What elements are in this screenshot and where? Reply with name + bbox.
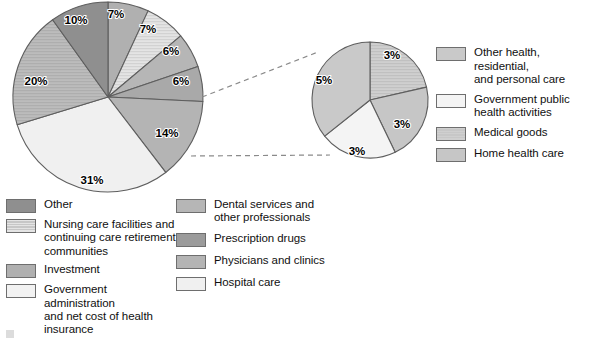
legend-swatch-icon — [176, 277, 206, 291]
legend-item[interactable]: Physicians and clinics — [176, 254, 326, 269]
legend-item[interactable]: Medical goods — [436, 126, 592, 141]
legend-item[interactable]: Government administration and net cost o… — [6, 283, 178, 337]
legend-swatch-icon — [6, 284, 36, 298]
legend-item-label: Other — [44, 198, 73, 211]
legend-item-label: Nursing care facilities and continuing c… — [44, 218, 176, 258]
legend-item[interactable]: Other — [6, 198, 178, 213]
legend-item-label: Hospital care — [214, 276, 280, 289]
legend-item-label: Physicians and clinics — [214, 254, 325, 267]
legend-swatch-icon — [6, 219, 36, 233]
legend-item[interactable]: Government public health activities — [436, 93, 592, 120]
legend-item[interactable]: Other health, residential, and personal … — [436, 46, 592, 87]
legend-item-label: Home health care — [474, 147, 564, 161]
legend-item[interactable]: Investment — [6, 263, 178, 278]
legend-item[interactable]: Prescription drugs — [176, 232, 326, 247]
legend-item-label: Prescription drugs — [214, 232, 306, 245]
legend-item[interactable]: Dental services and other professionals — [176, 198, 326, 225]
legend-item[interactable]: Home health care — [436, 147, 592, 162]
legend-swatch-icon — [436, 94, 466, 108]
chart-canvas: 7%7%6%6%14%31%20%10% 3%3%3%5% OtherNursi… — [0, 0, 592, 338]
legend-swatch-icon — [176, 233, 206, 247]
legend-swatch-icon — [176, 199, 206, 213]
legend-item-label: Dental services and other professionals — [214, 198, 314, 225]
exploded-pie-slices — [312, 42, 428, 158]
legend-swatch-icon — [176, 255, 206, 269]
legend-left-column: OtherNursing care facilities and continu… — [6, 198, 178, 338]
legend-item-label: Government public health activities — [474, 93, 570, 120]
legend-item-label: Other health, residential, and personal … — [474, 46, 592, 87]
legend-item[interactable]: Nursing care facilities and continuing c… — [6, 218, 178, 258]
legend-swatch-icon — [436, 47, 466, 61]
pie-slice-value-label: 3% — [384, 49, 401, 61]
legend-middle-column: Dental services and other professionalsP… — [176, 198, 326, 298]
footer-artifact — [6, 330, 20, 338]
legend-right-column: Other health, residential, and personal … — [436, 46, 592, 168]
pie-slice-value-label: 5% — [316, 74, 333, 86]
legend-swatch-icon — [436, 148, 466, 162]
pie-slice-value-label: 3% — [394, 118, 411, 130]
legend-item-label: Government administration and net cost o… — [44, 283, 178, 337]
legend-swatch-icon — [436, 127, 466, 141]
exploded-pie-chart: 3%3%3%5% — [300, 30, 445, 175]
legend-item-label: Investment — [44, 263, 100, 276]
footer-chip-icon — [6, 330, 14, 338]
pie-slice-value-label: 3% — [349, 145, 366, 157]
legend-item[interactable]: Hospital care — [176, 276, 326, 291]
legend-item-label: Medical goods — [474, 126, 548, 140]
legend-swatch-icon — [6, 264, 36, 278]
legend-swatch-icon — [6, 199, 36, 213]
